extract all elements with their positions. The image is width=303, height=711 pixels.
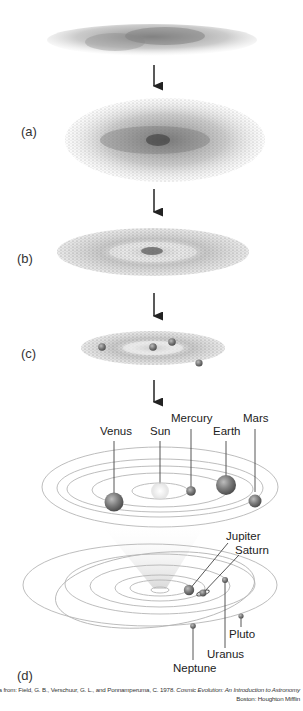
label-venus: Venus	[100, 425, 132, 437]
sun	[151, 482, 169, 500]
label-mars: Mars	[243, 412, 269, 424]
stage-c-planetesimal-disk	[81, 331, 225, 367]
stage-label-c: (c)	[21, 346, 36, 361]
label-neptune: Neptune	[173, 662, 216, 674]
protoplanet	[149, 343, 157, 351]
planet-neptune	[190, 623, 196, 629]
initial-nebula-cloud	[47, 24, 257, 56]
label-jupiter: Jupiter	[226, 530, 261, 542]
planet-earth	[216, 475, 236, 495]
stage-label-a: (a)	[21, 124, 37, 139]
protoplanet	[195, 359, 202, 366]
planet-jupiter	[184, 585, 194, 595]
label-uranus: Uranus	[207, 648, 244, 660]
planet-uranus	[222, 577, 228, 583]
solar-system-formation-diagram	[0, 0, 303, 711]
stage-a-collapsing-cloud	[65, 98, 265, 182]
source-credit-line1: Data from: Field, G. B., Verschuur, G. L…	[0, 686, 300, 693]
source-credit-line2: Boston: Houghton Mifflin	[236, 695, 300, 702]
label-saturn: Saturn	[235, 544, 269, 556]
planet-pluto	[238, 613, 243, 618]
planet-venus	[105, 493, 124, 512]
credit-title: Cosmic Evolution: An Introduction to Ast…	[176, 686, 300, 693]
label-mercury: Mercury	[171, 412, 213, 424]
protoplanet	[168, 338, 176, 346]
label-earth: Earth	[213, 425, 241, 437]
stage-label-b: (b)	[17, 251, 33, 266]
label-pluto: Pluto	[229, 628, 255, 640]
planet-mercury	[186, 486, 196, 496]
label-sun: Sun	[150, 425, 170, 437]
planet-saturn	[196, 589, 210, 597]
protoplanet	[98, 343, 106, 351]
stage-label-d: (d)	[17, 668, 33, 683]
planet-mars	[249, 495, 262, 508]
outer-planet-leaders	[189, 543, 241, 660]
zoom-cone	[100, 523, 206, 589]
credit-authors: Data from: Field, G. B., Verschuur, G. L…	[0, 686, 176, 693]
stage-b-protoplanetary-disk	[57, 228, 249, 276]
